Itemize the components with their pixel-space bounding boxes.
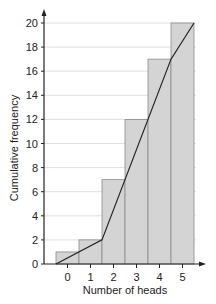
y-tick-label: 2 [32, 234, 38, 246]
x-tick-label: 5 [179, 271, 185, 283]
x-axis-label: Number of heads [83, 284, 168, 296]
bar-3 [125, 119, 148, 264]
cumulative-frequency-chart: 02468101214161820 012345 Number of heads… [0, 0, 216, 304]
y-tick-label: 20 [26, 17, 38, 29]
y-axis-arrow-icon [42, 9, 47, 16]
x-tick-labels: 012345 [64, 264, 185, 283]
x-tick-label: 1 [87, 271, 93, 283]
x-tick-label: 0 [64, 271, 70, 283]
y-tick-label: 10 [26, 138, 38, 150]
bar-2 [102, 180, 125, 264]
y-tick-label: 16 [26, 65, 38, 77]
y-tick-label: 12 [26, 113, 38, 125]
y-axis-label: Cumulative frequency [8, 94, 20, 201]
x-axis-arrow-icon [199, 262, 206, 267]
y-tick-label: 8 [32, 162, 38, 174]
y-tick-label: 6 [32, 186, 38, 198]
x-tick-label: 4 [156, 271, 162, 283]
y-tick-label: 0 [32, 258, 38, 270]
y-tick-label: 14 [26, 89, 38, 101]
bar-1 [79, 240, 102, 264]
x-tick-label: 3 [133, 271, 139, 283]
y-tick-label: 18 [26, 41, 38, 53]
y-tick-label: 4 [32, 210, 38, 222]
bar-5 [171, 23, 194, 264]
y-tick-labels: 02468101214161820 [26, 17, 44, 270]
x-tick-label: 2 [110, 271, 116, 283]
